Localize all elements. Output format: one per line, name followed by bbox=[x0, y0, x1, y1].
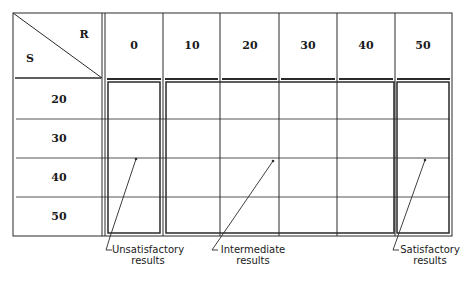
row-header-50: 50 bbox=[51, 210, 66, 223]
column-header-20: 20 bbox=[242, 39, 257, 52]
results-grid-diagram bbox=[0, 0, 471, 282]
column-header-50: 50 bbox=[415, 39, 430, 52]
column-header-0: 0 bbox=[130, 39, 138, 52]
satisfactory-group-box bbox=[397, 82, 449, 233]
row-header-40: 40 bbox=[51, 171, 66, 184]
intermediate-group-box bbox=[166, 82, 394, 233]
column-header-10: 10 bbox=[184, 39, 199, 52]
caption-line: Satisfactory bbox=[400, 244, 460, 255]
corner-diagonal bbox=[13, 13, 102, 78]
caption-line: Unsatisfactory bbox=[112, 244, 184, 255]
column-header-30: 30 bbox=[300, 39, 315, 52]
caption-line: results bbox=[400, 255, 460, 266]
caption-line: Intermediate bbox=[221, 244, 286, 255]
unsatisfactory-results-caption: Unsatisfactory results bbox=[112, 244, 184, 266]
column-axis-label: R bbox=[79, 28, 88, 41]
outer-frame bbox=[13, 13, 452, 236]
row-header-30: 30 bbox=[51, 132, 66, 145]
unsatisfactory-group-box bbox=[108, 82, 160, 233]
intermediate-results-caption: Intermediate results bbox=[221, 244, 286, 266]
satisfactory-results-caption: Satisfactory results bbox=[400, 244, 460, 266]
row-header-20: 20 bbox=[51, 93, 66, 106]
column-header-40: 40 bbox=[358, 39, 373, 52]
row-axis-label: S bbox=[26, 52, 34, 65]
caption-line: results bbox=[112, 255, 184, 266]
caption-line: results bbox=[221, 255, 286, 266]
